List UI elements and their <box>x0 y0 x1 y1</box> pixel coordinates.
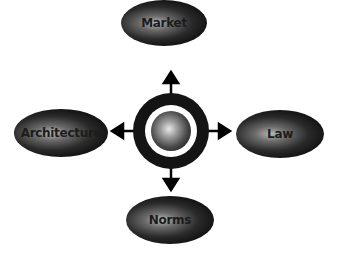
node-right-label: Law <box>267 127 293 141</box>
arrow-up-icon <box>164 72 178 95</box>
node-bottom: Norms <box>126 196 214 244</box>
arrow-right-icon <box>208 124 230 138</box>
node-left: Architecture <box>14 109 108 157</box>
arrow-down-icon <box>164 167 178 190</box>
center-hub <box>133 93 209 169</box>
node-top-label: Market <box>141 16 187 30</box>
node-bottom-label: Norms <box>149 213 191 227</box>
arrow-left-icon <box>112 124 134 138</box>
node-left-label: Architecture <box>21 126 102 140</box>
node-top: Market <box>121 0 207 46</box>
node-right: Law <box>236 110 324 158</box>
